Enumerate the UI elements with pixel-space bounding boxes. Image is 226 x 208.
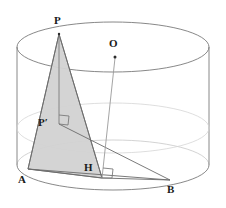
label-point-B: B: [167, 184, 174, 195]
geometry-canvas: [0, 0, 226, 208]
point-marker-O: [114, 56, 117, 59]
label-point-H: H: [84, 162, 93, 173]
segment-O-to-base: [102, 58, 115, 178]
right-angle-at-h-icon: [102, 168, 113, 178]
point-markers: [58, 33, 117, 59]
point-marker-P: [58, 33, 60, 35]
label-point-A: A: [18, 174, 26, 185]
label-point-P-prime: P′: [38, 117, 48, 128]
label-point-O: O: [109, 38, 118, 49]
label-point-P: P: [54, 15, 61, 26]
geometry-figure: P O P′ H A B: [0, 0, 226, 208]
